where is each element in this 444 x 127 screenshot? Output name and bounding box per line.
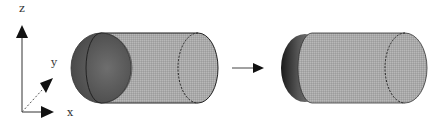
z-arrowhead-icon	[16, 25, 28, 38]
x-label: x	[67, 106, 74, 119]
arrow-right-icon	[253, 63, 264, 73]
cylinder-before	[71, 33, 218, 103]
axes-triad: z y x	[16, 2, 74, 119]
y-label: y	[50, 56, 58, 69]
cylinder-body	[298, 33, 427, 103]
cylinder-after	[281, 33, 427, 103]
z-label: z	[19, 2, 25, 15]
y-axis	[22, 90, 42, 112]
x-arrowhead-icon	[41, 106, 54, 118]
transition-arrow	[232, 63, 264, 73]
hemisphere-cap	[71, 33, 131, 103]
